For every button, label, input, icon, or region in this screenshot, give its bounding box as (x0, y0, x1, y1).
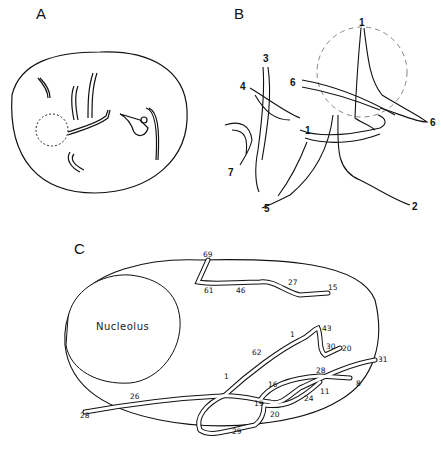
c-label-24: 24 (304, 394, 314, 403)
b-label-7: 7 (228, 167, 234, 178)
figure-canvas: 1 1 2 3 4 5 6 6 7 Nucleolus 69 61 46 27 (0, 0, 443, 454)
c-label-8: 8 (356, 379, 361, 388)
c-label-1a: 1 (290, 330, 295, 339)
nucleolus: Nucleolus (66, 275, 180, 383)
b-label-3: 3 (263, 53, 269, 64)
c-label-20a: 20 (342, 344, 352, 353)
c-label-62: 62 (252, 348, 262, 357)
c-label-30: 30 (326, 342, 336, 351)
c-label-20b: 20 (270, 410, 280, 419)
c-label-26: 26 (130, 392, 140, 401)
c-label-11: 11 (320, 387, 330, 396)
c-label-69: 69 (203, 250, 213, 259)
c-label-28b: 28 (80, 411, 90, 420)
panel-b-chromosomes (225, 27, 427, 208)
panel-a-nucleus (12, 52, 187, 193)
nucleolus-label: Nucleolus (96, 321, 149, 332)
c-label-31: 31 (378, 355, 388, 364)
c-label-46: 46 (236, 286, 246, 295)
c-label-28a: 28 (316, 366, 326, 375)
b-label-5: 5 (264, 203, 270, 214)
c-label-1b: 1 (224, 372, 229, 381)
c-label-19: 19 (254, 399, 264, 408)
c-label-15: 15 (328, 283, 338, 292)
b-label-6-right: 6 (430, 117, 436, 128)
c-label-29: 29 (232, 427, 242, 436)
b-label-1-mid: 1 (305, 125, 311, 136)
b-label-1-top: 1 (359, 17, 365, 28)
b-label-6-left: 6 (290, 77, 296, 88)
c-label-16: 16 (268, 380, 278, 389)
c-label-61: 61 (204, 286, 214, 295)
b-label-4: 4 (240, 81, 246, 92)
b-label-2: 2 (412, 201, 418, 212)
c-label-43: 43 (322, 324, 332, 333)
c-label-27: 27 (288, 278, 298, 287)
panel-b-labels: 1 1 2 3 4 5 6 6 7 (228, 17, 436, 214)
